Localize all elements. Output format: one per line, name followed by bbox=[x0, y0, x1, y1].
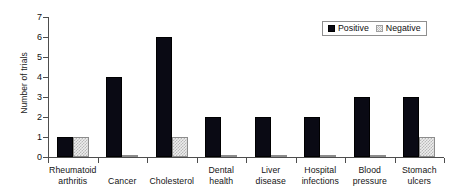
x-axis-tick bbox=[345, 158, 346, 163]
x-axis-label-line: Stomach bbox=[391, 165, 449, 176]
bar-negative bbox=[172, 137, 188, 157]
y-axis-tick-label: 2 bbox=[22, 113, 42, 122]
hatched-square-icon bbox=[376, 25, 383, 32]
x-axis-tick bbox=[147, 158, 148, 163]
x-axis-tick bbox=[296, 158, 297, 163]
x-axis-label-line: Rheumatoid bbox=[44, 165, 102, 176]
bar-negative bbox=[122, 155, 138, 157]
y-axis-tick-label: 0 bbox=[22, 153, 42, 162]
legend-entry-positive: Positive bbox=[328, 24, 369, 33]
bar-positive bbox=[156, 37, 172, 157]
bar-negative bbox=[73, 137, 89, 157]
black-square-icon bbox=[328, 25, 335, 32]
x-axis-tick bbox=[395, 158, 396, 163]
bar-chart: Number of trials 01234567 Rheumatoidarth… bbox=[0, 0, 451, 195]
bar-negative bbox=[221, 155, 237, 157]
bar-positive bbox=[304, 117, 320, 157]
y-axis-tick-label: 5 bbox=[22, 53, 42, 62]
x-axis-tick bbox=[98, 158, 99, 163]
y-axis-tick-label: 7 bbox=[22, 13, 42, 22]
bar-positive bbox=[255, 117, 271, 157]
x-axis-tick bbox=[444, 158, 445, 163]
bar-positive bbox=[205, 117, 221, 157]
bar-positive bbox=[403, 97, 419, 157]
x-axis-tick bbox=[48, 158, 49, 163]
x-axis-label-stomach-ulcers: Stomachulcers bbox=[391, 165, 449, 186]
x-axis-label-line: ulcers bbox=[391, 176, 449, 187]
bars-layer bbox=[48, 17, 444, 157]
bar-negative bbox=[370, 155, 386, 157]
legend-entry-negative: Negative bbox=[376, 24, 421, 33]
y-axis-tick-label: 4 bbox=[22, 73, 42, 82]
bar-positive bbox=[354, 97, 370, 157]
bar-negative bbox=[271, 155, 287, 157]
legend-label-positive: Positive bbox=[338, 24, 369, 33]
y-axis-tick-label: 6 bbox=[22, 33, 42, 42]
bar-positive bbox=[106, 77, 122, 157]
y-axis-tick-label: 1 bbox=[22, 133, 42, 142]
chart-legend: Positive Negative bbox=[322, 21, 427, 36]
y-axis-tick-label: 3 bbox=[22, 93, 42, 102]
x-axis-tick bbox=[246, 158, 247, 163]
y-axis-title: Number of trials bbox=[19, 28, 29, 138]
bar-negative bbox=[419, 137, 435, 157]
bar-positive bbox=[57, 137, 73, 157]
x-axis-tick bbox=[197, 158, 198, 163]
bar-negative bbox=[320, 155, 336, 157]
legend-label-negative: Negative bbox=[386, 24, 421, 33]
